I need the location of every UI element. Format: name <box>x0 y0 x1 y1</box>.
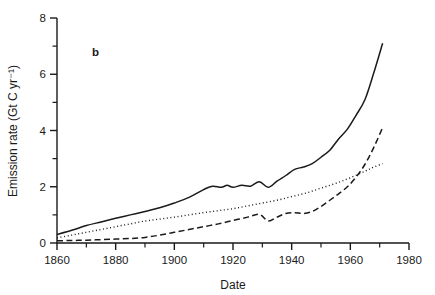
x-tick-label: 1940 <box>279 254 305 266</box>
axis-spines <box>57 18 409 243</box>
y-axis-tick-labels: 02468 <box>40 12 47 249</box>
axis-tickmarks <box>50 18 409 250</box>
y-axis-title: Emission rate (Gt C yr⁻¹) <box>6 65 20 197</box>
series-line-total <box>57 43 383 234</box>
chart-canvas: 02468 1860188019001920194019601980 Emiss… <box>0 0 435 295</box>
x-tick-label: 1880 <box>103 254 129 266</box>
y-tick-label: 8 <box>40 12 46 24</box>
data-series-group <box>57 43 383 240</box>
y-tick-label: 0 <box>40 237 46 249</box>
x-axis-title: Date <box>220 278 246 292</box>
panel-label: b <box>92 46 99 58</box>
x-tick-label: 1900 <box>162 254 188 266</box>
x-tick-label: 1960 <box>338 254 364 266</box>
y-tick-label: 6 <box>40 68 46 80</box>
x-axis-tick-labels: 1860188019001920194019601980 <box>44 254 422 266</box>
series-line-land-use <box>57 164 383 238</box>
y-tick-label: 2 <box>40 181 46 193</box>
x-tick-label: 1860 <box>44 254 70 266</box>
x-tick-label: 1920 <box>220 254 246 266</box>
emission-rate-figure: 02468 1860188019001920194019601980 Emiss… <box>0 0 435 295</box>
x-tick-label: 1980 <box>396 254 422 266</box>
y-tick-label: 4 <box>40 125 47 137</box>
